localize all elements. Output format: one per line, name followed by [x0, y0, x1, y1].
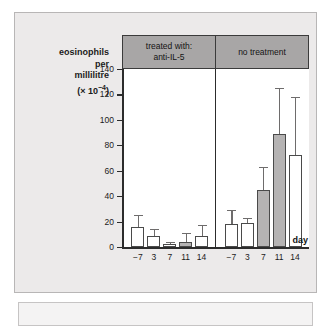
y-tick-40: [117, 196, 122, 197]
error-bar: [231, 210, 232, 224]
error-bar-cap: [182, 233, 191, 234]
y-tick-label-20: 20: [105, 217, 114, 227]
panel-header-untreated: no treatment: [215, 35, 309, 69]
error-bar-cap: [227, 210, 236, 211]
bar: [131, 227, 144, 247]
y-tick-label-0: 0: [109, 242, 114, 252]
x-tick-label: 7: [167, 252, 172, 262]
error-bar: [202, 225, 203, 235]
axes: 020406080100120140 −7371114−7371114: [122, 69, 309, 247]
error-bar-cap: [134, 215, 143, 216]
y-tick-60: [117, 171, 122, 172]
x-tick-label: 7: [261, 252, 266, 262]
y-tick-140: [117, 69, 122, 70]
y-tick-label-60: 60: [105, 166, 114, 176]
panel-divider-line: [215, 69, 216, 247]
x-tick-label: −7: [133, 252, 143, 262]
error-bar: [138, 215, 139, 226]
x-tick-label: 14: [290, 252, 299, 262]
y-tick-label-120: 120: [100, 89, 114, 99]
x-tick-label: 14: [197, 252, 206, 262]
y-axis-unit-prefix: (× 10: [77, 86, 98, 96]
y-tick-100: [117, 120, 122, 121]
bar: [195, 236, 208, 247]
bar: [241, 223, 254, 247]
error-bar-cap: [150, 229, 159, 230]
error-bar-cap: [198, 225, 207, 226]
y-tick-20: [117, 222, 122, 223]
caption-box: [18, 302, 313, 326]
bar: [273, 134, 286, 247]
bar: [225, 224, 238, 247]
y-tick-label-100: 100: [100, 115, 114, 125]
x-axis-title: day: [272, 235, 308, 245]
error-bar: [279, 88, 280, 134]
y-axis-title: eosinophils per millilitre (× 10−4): [21, 47, 109, 97]
x-tick-label: 3: [245, 252, 250, 262]
bar: [179, 242, 192, 247]
y-axis-title-line-3: millilitre: [21, 70, 109, 82]
error-bar: [186, 233, 187, 242]
x-tick-label: −7: [227, 252, 237, 262]
x-tick-label: 11: [275, 252, 284, 262]
plot-area: treated with: anti-IL-5 no treatment 020…: [122, 35, 309, 285]
panel-header-treated-line1: treated with:: [146, 41, 192, 52]
bar: [163, 244, 176, 247]
error-bar-cap: [259, 167, 268, 168]
x-axis-line: [122, 247, 309, 249]
y-tick-label-80: 80: [105, 140, 114, 150]
y-axis-title-line-1: eosinophils: [21, 47, 109, 59]
x-tick-label: 11: [181, 252, 190, 262]
error-bar-cap: [275, 88, 284, 89]
y-axis-line: [122, 69, 124, 247]
bar: [289, 155, 302, 247]
y-axis-title-line-2: per: [21, 59, 109, 71]
y-tick-0: [117, 247, 122, 248]
panel-header-untreated-line1: no treatment: [238, 47, 286, 58]
error-bar: [295, 97, 296, 155]
error-bar-cap: [166, 242, 175, 243]
error-bar-cap: [243, 218, 252, 219]
x-tick-label: 3: [151, 252, 156, 262]
figure-panel: eosinophils per millilitre (× 10−4) trea…: [14, 12, 317, 293]
bar: [147, 236, 160, 247]
panel-header-treated-line2: anti-IL-5: [146, 52, 192, 63]
y-tick-80: [117, 145, 122, 146]
y-tick-label-140: 140: [100, 64, 114, 74]
y-axis-unit: (× 10−4): [21, 82, 109, 98]
y-tick-120: [117, 94, 122, 95]
error-bar: [263, 167, 264, 190]
bar: [257, 190, 270, 247]
panel-header-treated: treated with: anti-IL-5: [122, 35, 215, 69]
y-tick-label-40: 40: [105, 191, 114, 201]
error-bar-cap: [291, 97, 300, 98]
